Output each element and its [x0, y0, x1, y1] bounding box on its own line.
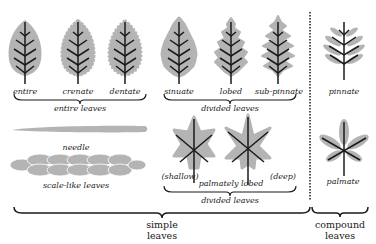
leaf-sinuate [162, 18, 196, 84]
leaf-dentate [109, 20, 142, 84]
leaf-lobed [215, 18, 247, 84]
label-pinnate: pinnate [329, 87, 360, 96]
label-shallow: (shallow) [161, 172, 198, 181]
label-palmately-lobed: palmately lobed [199, 179, 264, 188]
brace-compound-leaves [312, 207, 368, 217]
title-compound-line1: compound [315, 219, 365, 230]
title-simple-line1: simple [146, 219, 178, 230]
leaf-crenate [62, 20, 95, 84]
title-simple-leaves: simple leaves [146, 219, 178, 241]
label-sub-pinnate: sub-pinnate [255, 87, 303, 96]
leaf-entire [9, 20, 42, 84]
leaf-scale-like [10, 154, 146, 176]
label-lobed: lobed [220, 87, 242, 96]
label-scale-like: scale-like leaves [43, 181, 109, 190]
label-divided-leaves-bottom: divided leaves [201, 196, 259, 205]
label-sinuate: sinuate [164, 87, 194, 96]
leaf-needle [12, 126, 147, 133]
label-needle: needle [62, 143, 89, 152]
leaf-palmate-deep [226, 115, 270, 185]
title-compound-leaves: compound leaves [315, 219, 365, 241]
title-simple-line2: leaves [146, 230, 178, 241]
label-deep: (deep) [270, 172, 296, 181]
brace-simple-leaves [14, 207, 310, 218]
label-divided-leaves-top: divided leaves [201, 104, 259, 113]
label-crenate: crenate [63, 87, 94, 96]
label-dentate: dentate [110, 87, 141, 96]
leaf-palmate-compound [317, 119, 371, 176]
label-palmate: palmate [327, 177, 360, 186]
leaf-sub-pinnate [262, 16, 294, 84]
label-entire-leaves: entire leaves [54, 104, 106, 113]
leaf-pinnate [322, 22, 366, 80]
label-entire: entire [13, 87, 37, 96]
title-compound-line2: leaves [315, 230, 365, 241]
